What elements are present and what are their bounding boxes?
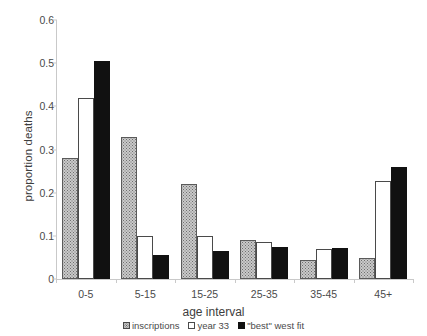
legend-label: inscriptions — [132, 320, 180, 331]
y-tick-label: 0.1 — [0, 230, 54, 242]
x-axis-label: age interval — [0, 305, 427, 319]
bar — [94, 61, 110, 279]
bar — [78, 98, 94, 279]
bar — [197, 236, 213, 279]
y-axis-label: proportion deaths — [22, 66, 34, 246]
x-tick-label: 45+ — [374, 288, 392, 300]
x-tick-mark — [175, 279, 176, 283]
bar — [332, 248, 348, 279]
bar — [181, 184, 197, 279]
bar — [300, 260, 316, 279]
x-tick-mark — [294, 279, 295, 283]
y-tick-label: 0.3 — [0, 144, 54, 156]
x-tick-mark — [413, 279, 414, 283]
y-tick-label: 0.4 — [0, 100, 54, 112]
x-tick-label: 35-45 — [310, 288, 337, 300]
x-tick-label: 15-25 — [191, 288, 218, 300]
bar — [256, 242, 272, 279]
bar — [375, 181, 391, 279]
bar — [121, 137, 137, 279]
y-tick-label: 0.2 — [0, 187, 54, 199]
bar — [62, 158, 78, 279]
bar-chart: proportion deaths 00.10.20.30.40.50.6 0-… — [0, 0, 427, 336]
bar — [153, 255, 169, 279]
x-tick-label: 0-5 — [78, 288, 93, 300]
bar — [359, 258, 375, 279]
x-tick-mark — [235, 279, 236, 283]
x-tick-mark — [56, 279, 57, 283]
x-tick-label: 5-15 — [135, 288, 156, 300]
bar — [240, 240, 256, 279]
bar — [213, 251, 229, 279]
legend-item: year 33 — [188, 320, 229, 331]
legend-item: "best" west fit — [238, 320, 304, 331]
y-tick-label: 0.6 — [0, 14, 54, 26]
bar — [316, 249, 332, 279]
bar — [137, 236, 153, 279]
legend-swatch-icon — [238, 322, 245, 329]
bar — [391, 167, 407, 279]
legend-swatch-icon — [188, 322, 195, 329]
legend-label: year 33 — [197, 320, 229, 331]
x-tick-label: 25-35 — [251, 288, 278, 300]
chart-legend: inscriptionsyear 33"best" west fit — [0, 320, 427, 331]
x-tick-mark — [116, 279, 117, 283]
plot-area — [56, 20, 413, 279]
y-tick-label: 0.5 — [0, 57, 54, 69]
legend-swatch-icon — [123, 322, 130, 329]
legend-item: inscriptions — [123, 320, 180, 331]
bar — [272, 247, 288, 279]
x-tick-mark — [354, 279, 355, 283]
y-tick-label: 0 — [0, 273, 54, 285]
legend-label: "best" west fit — [247, 320, 304, 331]
